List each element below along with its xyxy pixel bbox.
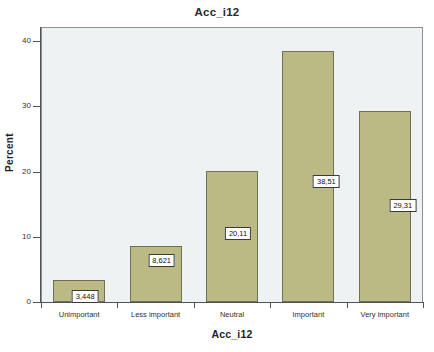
y-axis-tick (33, 172, 40, 173)
bar-value-label: 8,621 (148, 254, 175, 267)
x-axis-tick (41, 303, 42, 308)
y-axis-tick-label: 30 (8, 101, 31, 110)
x-axis-tick (423, 303, 424, 308)
y-axis-line (40, 27, 41, 303)
bar-chart-figure: Acc_i12 Percent Acc_i12 0102030403,448Un… (0, 0, 434, 352)
x-axis-category-label: Unimportant (41, 310, 117, 319)
bar-value-label: 3,448 (72, 290, 99, 303)
x-axis-tick (270, 303, 271, 308)
y-axis-tick (33, 302, 40, 303)
y-axis-tick-label: 40 (8, 36, 31, 45)
y-axis-tick-label: 0 (8, 297, 31, 306)
x-axis-category-label: Neutral (194, 310, 270, 319)
y-axis-tick (33, 106, 40, 107)
chart-title: Acc_i12 (0, 6, 434, 18)
bar-value-label: 29,31 (389, 199, 416, 212)
x-axis-category-label: Less important (117, 310, 193, 319)
y-axis-tick (33, 237, 40, 238)
x-axis-title: Acc_i12 (41, 328, 423, 340)
x-axis-tick (117, 303, 118, 308)
bar-value-label: 20,11 (225, 227, 251, 240)
y-axis-tick (33, 41, 40, 42)
y-axis-tick-label: 10 (8, 232, 31, 241)
x-axis-tick (194, 303, 195, 308)
x-axis-category-label: Important (270, 310, 346, 319)
x-axis-category-label: Very important (347, 310, 423, 319)
x-axis-tick (347, 303, 348, 308)
y-axis-tick-label: 20 (8, 167, 31, 176)
bar-value-label: 38,51 (313, 175, 340, 188)
